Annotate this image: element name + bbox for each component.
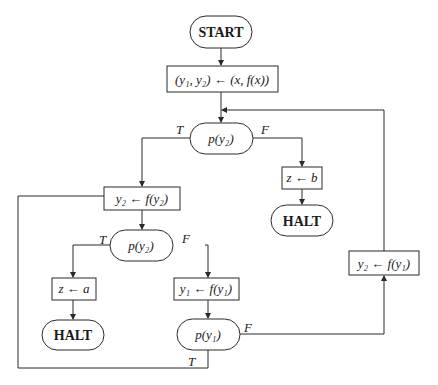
node-init: (y₁, y₂) ← (x, f(x))	[167, 66, 278, 92]
node-update-y1: y₁ ← f(y₁)	[174, 278, 239, 300]
edge-label-mid-true: T	[99, 232, 107, 247]
node-update-y2-from-y1: y₂ ← f(y₁)	[349, 251, 419, 275]
node-update-y2-from-y1-label: y₂ ← f(y₁)	[356, 256, 410, 271]
node-halt-left: HALT	[42, 320, 104, 350]
node-update-y1-label: y₁ ← f(y₁)	[178, 281, 232, 296]
node-halt-right-label: HALT	[283, 214, 322, 229]
node-assign-zb-label: z ← b	[285, 170, 318, 185]
node-init-label: (y₁, y₂) ← (x, f(x))	[175, 72, 269, 87]
edge-test-top-false	[253, 138, 302, 166]
edge-label-y1-false: F	[243, 320, 253, 335]
edge-test-y1-false	[240, 276, 384, 334]
node-test-y1: p(y₁)	[177, 319, 240, 350]
edge-label-y1-true: T	[188, 354, 196, 369]
flowchart-canvas: START (y₁, y₂) ← (x, f(x)) p(y₂) z ← b H…	[0, 0, 438, 385]
node-test-mid: p(y₂)	[110, 230, 173, 261]
edge-label-top-true: T	[176, 122, 184, 137]
node-test-y1-label: p(y₁)	[194, 327, 220, 342]
edge-label-top-false: F	[260, 122, 270, 137]
node-assign-za-label: z ← a	[57, 281, 90, 296]
edge-label-mid-false: F	[181, 231, 191, 246]
node-test-top-label: p(y₂)	[207, 131, 233, 146]
node-halt-left-label: HALT	[54, 328, 93, 343]
node-assign-zb: z ← b	[282, 167, 322, 189]
edge-test-top-true	[142, 138, 190, 186]
edge-test-mid-false	[205, 245, 208, 277]
node-test-top: p(y₂)	[190, 123, 253, 154]
node-start: START	[190, 16, 252, 48]
node-update-y2-label: y₂ ← f(y₂)	[114, 191, 168, 206]
node-halt-right: HALT	[271, 205, 333, 236]
node-test-mid-label: p(y₂)	[127, 238, 153, 253]
node-start-label: START	[198, 25, 244, 40]
node-assign-za: z ← a	[52, 278, 96, 300]
node-update-y2: y₂ ← f(y₂)	[104, 187, 180, 210]
